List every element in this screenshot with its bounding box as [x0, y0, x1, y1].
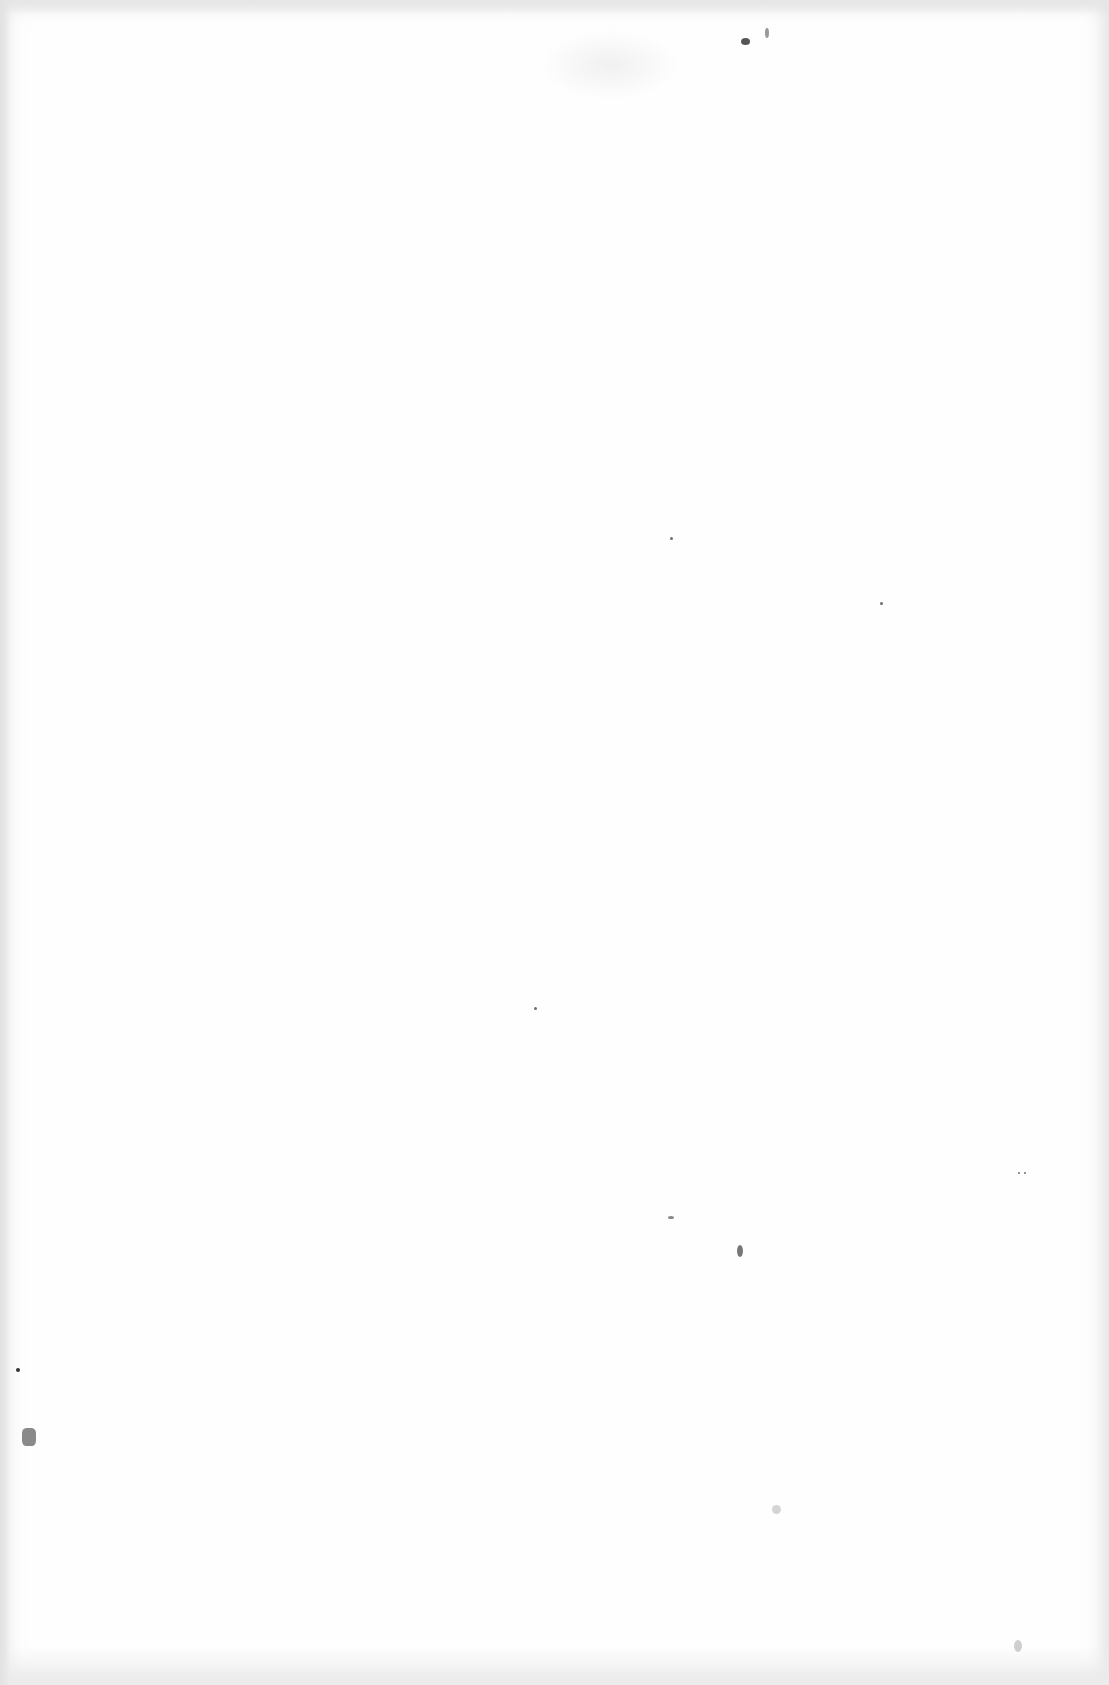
dust-speck [670, 537, 673, 540]
page-bottom-edge-shadow [0, 1645, 1109, 1685]
dust-speck [880, 602, 883, 605]
page-left-edge-shadow [0, 0, 10, 1685]
dust-speck [1014, 1640, 1022, 1652]
blank-scanned-page [0, 0, 1109, 1685]
dust-speck [534, 1007, 537, 1010]
page-top-edge-shadow [0, 0, 1109, 14]
dust-speck [668, 1216, 674, 1219]
dust-speck [772, 1505, 781, 1514]
dust-speck [1018, 1172, 1020, 1174]
dust-speck [737, 1245, 743, 1257]
dust-speck [1024, 1172, 1026, 1174]
dust-speck [16, 1368, 20, 1372]
faint-bleed-through [540, 30, 680, 100]
dust-speck [741, 38, 750, 45]
dust-speck [22, 1428, 36, 1446]
dust-speck [765, 28, 769, 38]
